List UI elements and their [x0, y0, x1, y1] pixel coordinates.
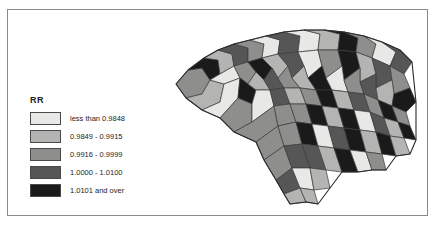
- figure-frame: RR less than 0.9848 0.9849 - 0.9915 0.99…: [7, 9, 428, 216]
- legend-swatch-4: [30, 184, 61, 197]
- figure-panel: RR less than 0.9848 0.9849 - 0.9915 0.99…: [0, 0, 437, 226]
- map-legend: RR less than 0.9848 0.9849 - 0.9915 0.99…: [25, 95, 160, 200]
- legend-swatch-2: [30, 148, 61, 161]
- county-layer: [176, 30, 416, 204]
- legend-item: less than 0.9848: [25, 110, 160, 127]
- legend-label-0: less than 0.9848: [70, 115, 125, 123]
- legend-label-2: 0.9916 - 0.9999: [70, 151, 123, 159]
- legend-label-4: 1.0101 and over: [70, 187, 124, 195]
- legend-title: RR: [30, 95, 160, 105]
- map-svg: [158, 22, 430, 222]
- legend-swatch-0: [30, 112, 61, 125]
- legend-swatch-3: [30, 166, 61, 179]
- legend-label-3: 1.0000 - 1.0100: [70, 169, 123, 177]
- legend-item: 0.9849 - 0.9915: [25, 128, 160, 145]
- choropleth-map: [158, 22, 430, 222]
- legend-label-1: 0.9849 - 0.9915: [70, 133, 123, 141]
- legend-item: 1.0101 and over: [25, 182, 160, 199]
- legend-item: 1.0000 - 1.0100: [25, 164, 160, 181]
- legend-item: 0.9916 - 0.9999: [25, 146, 160, 163]
- legend-swatch-1: [30, 130, 61, 143]
